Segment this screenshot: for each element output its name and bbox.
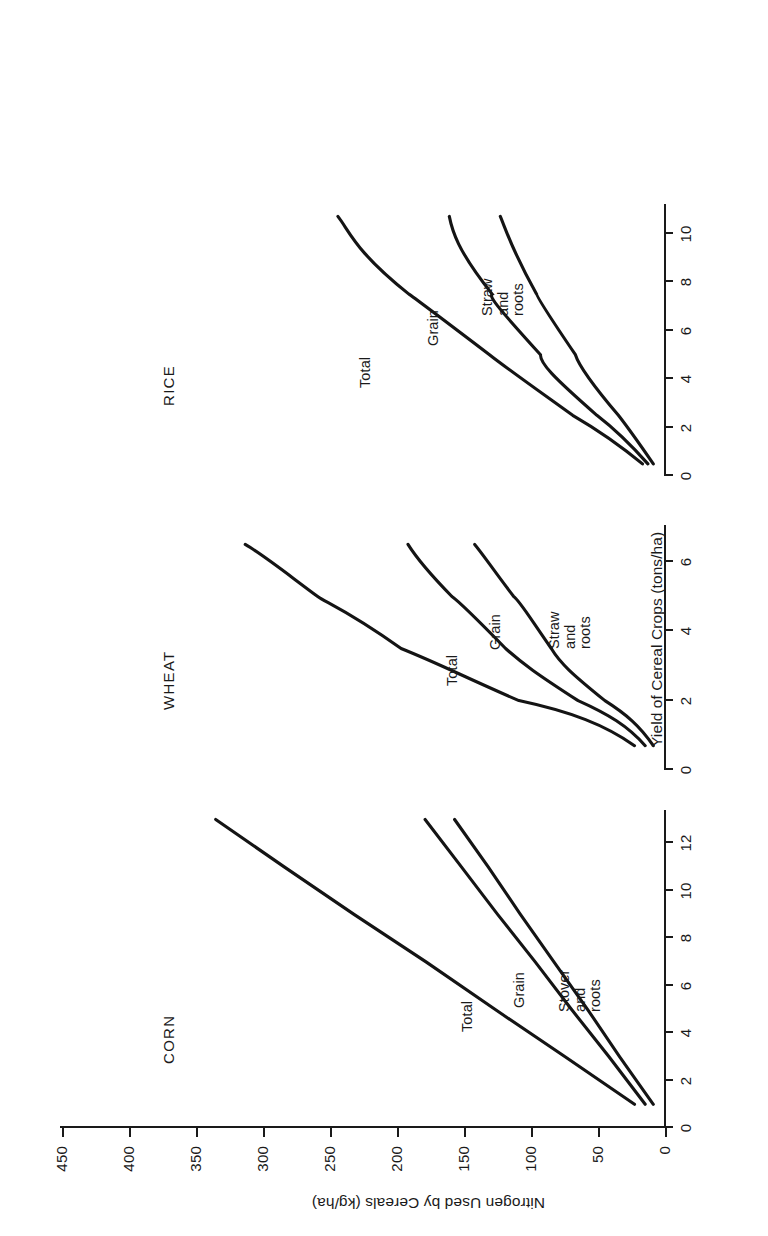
y-axis-tick [665,1128,667,1137]
panel-corn: 0 2 4 6 8 10 12 Total Grain Stoverandroo… [60,798,666,1128]
x-tick-label: 12 [677,827,694,859]
x-tick-label: 4 [677,363,694,395]
x-tick-label: 10 [677,875,694,907]
curve-stover-and-roots [455,820,654,1105]
x-tick-label: 6 [677,970,694,1002]
y-tick-label: 300 [254,1146,271,1194]
x-tick-label: 2 [677,1065,694,1097]
y-axis-tick [62,1128,64,1137]
y-tick-label: 50 [589,1146,606,1194]
panel-title-corn: CORN [160,1015,177,1064]
curve-grain [408,544,645,745]
x-tick-label: 8 [677,922,694,954]
curve-total [216,820,635,1105]
curve-label-total: Total [460,1001,476,1032]
curve-label-straw-and-roots: Strawandroots [480,278,527,316]
curve-label-grain: Grain [512,972,528,1008]
three-panel-line-chart: 0 50 100 150 200 250 300 350 400 450 Nit… [0,0,768,1236]
x-tick-label: 6 [677,315,694,347]
curve-grain [425,820,645,1105]
x-tick-label: 0 [677,754,694,786]
curve-label-grain: Grain [488,614,504,650]
y-tick-label: 400 [120,1146,137,1194]
x-tick-label: 2 [677,412,694,444]
x-tick-label: 10 [677,218,694,250]
y-tick-label: 150 [455,1146,472,1194]
x-tick-label: 2 [677,685,694,717]
y-tick-label: 200 [388,1146,405,1194]
corn-curves [60,798,670,1128]
y-axis-tick [397,1128,399,1137]
y-axis-tick [531,1128,533,1137]
rice-curves [60,186,670,476]
y-axis-tick [464,1128,466,1137]
panel-wheat: 0 2 4 6 Total Grain Strawandroots [60,510,666,770]
y-axis-tick [129,1128,131,1137]
y-axis-title: Nitrogen Used by Cereals (kg/ha) [312,1194,545,1212]
figure-rotation-wrapper: 0 50 100 150 200 250 300 350 400 450 Nit… [0,0,768,1236]
curve-label-grain: Grain [426,310,442,346]
y-tick-label: 350 [187,1146,204,1194]
curve-label-stover-and-roots: Stoverandroots [557,969,604,1012]
y-axis-tick [598,1128,600,1137]
y-tick-label: 450 [53,1146,70,1194]
y-tick-label: 100 [522,1146,539,1194]
x-tick-label: 4 [677,1017,694,1049]
x-tick-label: 0 [677,460,694,492]
y-tick-label: 0 [656,1146,673,1194]
curve-straw-and-roots [500,216,653,464]
panel-rice: 0 2 4 6 8 10 Total Grain Strawandroots [60,186,666,476]
x-tick-label: 0 [677,1112,694,1144]
y-axis-tick [263,1128,265,1137]
panel-title-rice: RICE [160,365,177,406]
curve-label-total: Total [358,357,374,388]
x-tick-label: 8 [677,266,694,298]
x-tick-label: 6 [677,546,694,578]
y-axis-tick [330,1128,332,1137]
x-tick-label: 4 [677,615,694,647]
curve-label-straw-and-roots: Strawandroots [547,611,594,649]
y-axis-tick [196,1128,198,1137]
x-axis-title: Yield of Cereal Crops (tons/ha) [648,532,666,747]
curve-grain [449,216,648,464]
curve-label-total: Total [445,655,461,686]
panel-title-wheat: WHEAT [160,650,177,710]
curve-total [338,216,643,464]
y-tick-label: 250 [321,1146,338,1194]
